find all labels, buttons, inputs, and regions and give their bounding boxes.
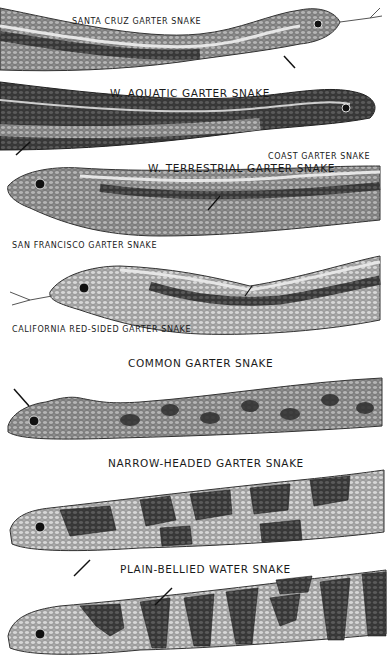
label-common-garter-snake: COMMON GARTER SNAKE [128,357,273,369]
snake-illustration-plate: SANTA CRUZ GARTER SNAKE W. AQUATIC GARTE… [0,0,391,669]
label-santa-cruz-garter-snake: SANTA CRUZ GARTER SNAKE [72,17,201,26]
narrow-headed-snake-illustration [10,470,384,576]
label-narrow-headed-garter-snake: NARROW-HEADED GARTER SNAKE [108,457,304,469]
plain-bellied-snake-illustration [8,570,386,654]
w-terrestrial-snake-illustration [8,166,380,236]
label-w-terrestrial-garter-snake: W. TERRESTRIAL GARTER SNAKE [148,162,335,174]
label-california-red-sided-garter-snake: CALIFORNIA RED-SIDED GARTER SNAKE [12,325,191,334]
label-coast-garter-snake: COAST GARTER SNAKE [268,152,370,161]
label-san-francisco-garter-snake: SAN FRANCISCO GARTER SNAKE [12,241,157,250]
common-snake-illustration [8,378,382,439]
label-plain-bellied-water-snake: PLAIN-BELLIED WATER SNAKE [120,563,291,575]
california-red-sided-snake-illustration [10,256,380,334]
label-w-aquatic-garter-snake: W. AQUATIC GARTER SNAKE [110,87,270,99]
